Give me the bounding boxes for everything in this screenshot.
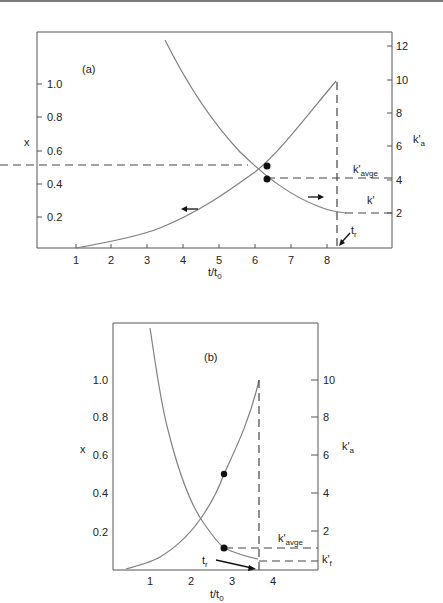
panel-label-b: (b): [204, 351, 217, 363]
label-tr: tr: [202, 554, 208, 569]
curve-k-activity: [165, 40, 346, 213]
x-tick-label: 5: [216, 254, 222, 266]
y-right-tick-label: 4: [396, 174, 402, 186]
chart-b: 1 2 3 4 1.0 0.8 0.6 0.4 0.2 10 8 6 4 2 x…: [80, 323, 355, 603]
marker-k-avge: [264, 176, 271, 183]
y-left-tick-label: 0.2: [93, 526, 108, 538]
y-right-tick-label: 2: [323, 525, 329, 537]
x-tick-label: 3: [229, 575, 235, 587]
arrow-tr-icon: [339, 233, 350, 246]
y-right-tick-label: 6: [323, 449, 329, 461]
curve-x-conversion: [76, 81, 336, 248]
y-left-title: x: [80, 443, 86, 455]
y-left-tick-label: 0.4: [93, 487, 108, 499]
arrow-tr-icon: [216, 560, 256, 571]
y-right-ticks: [311, 380, 318, 531]
x-tick-label: 1: [147, 575, 153, 587]
y-left-tick-label: 1.0: [93, 374, 108, 386]
y-left-ticks: [37, 84, 42, 217]
y-right-tick-label: 10: [396, 74, 408, 86]
x-tick-label: 6: [252, 254, 258, 266]
arrow-right-icon: [308, 194, 324, 200]
y-right-tick-label: 8: [323, 411, 329, 423]
x-tick-label: 8: [324, 254, 330, 266]
y-left-tick-label: 0.6: [47, 145, 62, 157]
marker-x-half: [221, 471, 227, 477]
chart-a: 1 2 3 4 5 6 7 8 1.0 0.8 0.6 0.4 0.2 12 1…: [0, 32, 426, 281]
y-left-tick-label: 0.6: [93, 449, 108, 461]
label-tr: tr: [351, 224, 357, 239]
panel-label-a: (a): [82, 63, 95, 75]
marker-k-avge: [221, 545, 228, 552]
y-left-tick-label: 0.8: [47, 111, 62, 123]
x-tick-label: 1: [73, 254, 79, 266]
label-k-avge: k'avge: [353, 163, 379, 178]
y-left-tick-label: 0.2: [47, 211, 62, 223]
label-k-final: k'f: [322, 553, 333, 568]
x-title: t/t0: [210, 588, 224, 603]
y-right-tick-label: 4: [323, 487, 329, 499]
x-tick-label: 4: [270, 575, 276, 587]
x-tick-label: 3: [144, 254, 150, 266]
label-k-avge: k'avge: [278, 532, 304, 547]
y-left-title: x: [24, 136, 30, 148]
y-right-tick-label: 2: [396, 207, 402, 219]
label-k-prime: k': [367, 194, 375, 206]
y-right-title: k'a: [342, 440, 355, 455]
x-tick-label: 7: [288, 254, 294, 266]
y-right-ticks: [387, 46, 392, 213]
y-right-tick-label: 8: [396, 107, 402, 119]
curve-x-conversion: [126, 380, 259, 569]
y-right-tick-label: 12: [396, 40, 408, 52]
y-left-tick-label: 1.0: [47, 78, 62, 90]
x-tick-label: 2: [108, 254, 114, 266]
x-title: t/t0: [208, 266, 222, 281]
y-right-tick-label: 10: [323, 374, 335, 386]
y-right-tick-label: 6: [396, 140, 402, 152]
y-left-tick-label: 0.8: [93, 411, 108, 423]
marker-x-half: [264, 163, 271, 170]
figure: 1 2 3 4 5 6 7 8 1.0 0.8 0.6 0.4 0.2 12 1…: [0, 0, 443, 603]
y-left-tick-label: 0.4: [47, 178, 62, 190]
y-right-title: k'a: [413, 133, 426, 148]
x-tick-label: 2: [188, 575, 194, 587]
x-tick-label: 4: [180, 254, 186, 266]
x-ticks: [76, 244, 327, 248]
